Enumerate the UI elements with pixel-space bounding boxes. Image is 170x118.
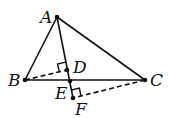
label-b: B	[7, 70, 21, 90]
point-a	[55, 15, 60, 20]
point-e	[68, 79, 73, 84]
segment-cf-dashed	[73, 80, 145, 98]
label-d: D	[72, 57, 87, 77]
point-d	[65, 68, 70, 73]
point-c	[143, 78, 148, 83]
label-f: F	[74, 99, 88, 118]
label-a: A	[38, 7, 52, 27]
point-b	[23, 78, 28, 83]
label-c: C	[150, 70, 163, 90]
geometry-diagram: A B C D E F	[0, 0, 170, 118]
segment-bd-dashed	[25, 70, 67, 80]
segment-ac	[57, 17, 145, 80]
label-e: E	[54, 83, 68, 103]
